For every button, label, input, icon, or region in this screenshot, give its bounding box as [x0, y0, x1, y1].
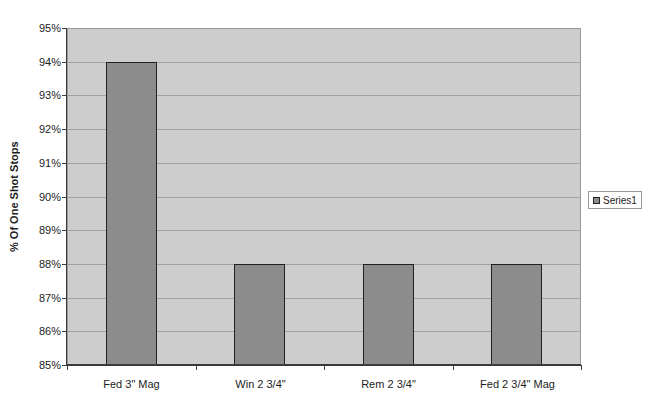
x-tick-label: Win 2 3/4" [196, 378, 325, 391]
bar [363, 264, 414, 365]
y-tick-label: 90% [0, 191, 61, 204]
y-tick-label: 85% [0, 359, 61, 372]
y-tick-label: 89% [0, 224, 61, 237]
x-tick-label: Rem 2 3/4" [324, 378, 453, 391]
y-axis-line [66, 28, 67, 365]
x-tick-mark [581, 365, 582, 370]
bar [106, 62, 157, 365]
x-tick-label: Fed 3" Mag [67, 378, 196, 391]
y-tick-label: 92% [0, 123, 61, 136]
y-tick-label: 93% [0, 89, 61, 102]
bar [234, 264, 285, 365]
x-tick-label: Fed 2 3/4" Mag [453, 378, 582, 391]
x-axis-line [66, 364, 581, 366]
y-tick-label: 87% [0, 292, 61, 305]
bar [491, 264, 542, 365]
legend-series-label: Series1 [603, 195, 637, 206]
y-tick-label: 95% [0, 22, 61, 35]
y-tick-label: 88% [0, 258, 61, 271]
y-tick-label: 91% [0, 157, 61, 170]
legend: Series1 [588, 191, 642, 209]
bar-chart: % Of One Shot Stops Series1 85%86%87%88%… [0, 0, 668, 417]
y-tick-label: 86% [0, 325, 61, 338]
legend-series-swatch [593, 197, 600, 204]
plot-area [67, 28, 581, 365]
y-tick-label: 94% [0, 56, 61, 69]
